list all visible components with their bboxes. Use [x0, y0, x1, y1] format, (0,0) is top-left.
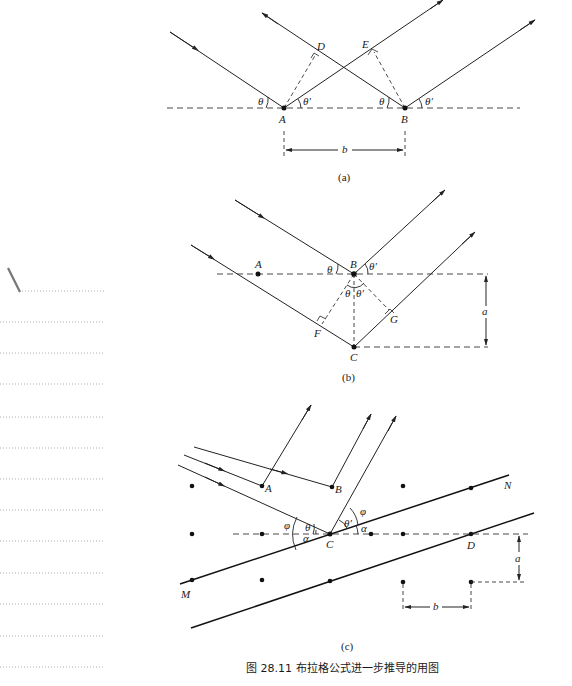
lattice-point: [260, 532, 265, 537]
lattice-point: [369, 532, 374, 537]
panel-b-label: (b): [342, 371, 355, 384]
label-point-n: N: [503, 479, 512, 491]
label-point-m: M: [180, 588, 191, 600]
label-theta: θ: [379, 95, 385, 107]
figure-caption: 图 28.11 布拉格公式进一步推导的用图: [246, 661, 439, 675]
dimension-a-label: a: [482, 305, 488, 317]
label-alpha-left: α: [303, 532, 309, 544]
lattice-point: [328, 579, 333, 584]
label-point-a: A: [264, 482, 272, 494]
label-theta-prime: θ': [369, 260, 377, 272]
label-point-b: B: [335, 483, 342, 495]
point-a: [282, 106, 287, 111]
dimension-a-label: a: [515, 552, 521, 564]
lattice-point: [190, 484, 195, 489]
panel-b: A B θ θ' θ θ' F G C a (b): [191, 190, 488, 384]
panel-c-label: (c): [341, 640, 354, 653]
label-theta: θ: [327, 263, 333, 275]
panel-a: θ θ' θ θ' A B D E b (a): [167, 0, 535, 184]
label-point-b: B: [350, 258, 357, 270]
label-theta-prime-lower: θ': [356, 287, 364, 299]
dimension-b-label: b: [433, 600, 439, 612]
label-theta-lower: θ: [345, 287, 351, 299]
label-theta-prime: θ': [303, 95, 311, 107]
label-point-g: G: [390, 313, 398, 325]
label-theta-prime: θ': [344, 517, 352, 529]
label-point-d: D: [466, 539, 475, 551]
label-phi-left: φ: [284, 519, 290, 531]
point-c: [328, 532, 333, 537]
point-b: [403, 106, 408, 111]
point-b: [351, 271, 357, 277]
panel-a-label: (a): [338, 171, 351, 184]
label-point-f: F: [313, 327, 321, 339]
lattice-point: [190, 532, 195, 537]
lattice-point: [401, 484, 406, 489]
label-alpha-right: α: [361, 522, 367, 534]
label-point-a: A: [254, 258, 262, 270]
point-a: [260, 484, 265, 489]
lattice-point: [469, 486, 474, 491]
point-a: [256, 272, 261, 277]
label-point-c: C: [350, 351, 358, 363]
label-theta: θ: [258, 95, 264, 107]
lattice-point: [401, 532, 406, 537]
pen-mark: [8, 268, 20, 292]
panel-c: A B N M C D φ θ α θ' φ α a b (c): [178, 405, 534, 653]
label-point-b: B: [401, 113, 408, 125]
caption-number: 图 28.11: [246, 662, 292, 675]
point-b: [330, 485, 335, 490]
label-point-a: A: [278, 113, 286, 125]
diagram-canvas: θ θ' θ θ' A B D E b (a): [0, 0, 572, 686]
lattice-point: [190, 578, 195, 583]
label-point-d: D: [316, 40, 325, 52]
label-point-e: E: [361, 38, 369, 50]
label-point-c: C: [326, 538, 334, 550]
point-d: [469, 532, 474, 537]
caption-text: 布拉格公式进一步推导的用图: [296, 661, 439, 675]
label-phi-right: φ: [360, 505, 366, 517]
point-c: [352, 345, 357, 350]
figure-page: θ θ' θ θ' A B D E b (a): [0, 0, 572, 686]
lattice-point: [260, 578, 265, 583]
label-theta-prime: θ': [425, 95, 433, 107]
margin-notes: [0, 268, 104, 667]
lattice-point: [401, 580, 406, 585]
dimension-b-label: b: [342, 143, 348, 155]
